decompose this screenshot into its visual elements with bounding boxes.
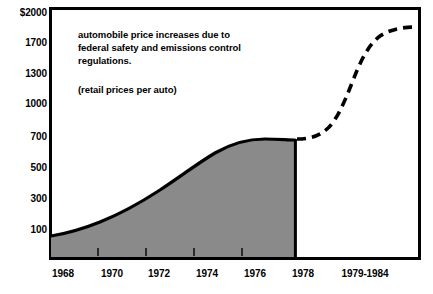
- x-tick-label: 1972: [148, 268, 170, 279]
- y-tick-label: 300: [1, 193, 47, 204]
- chart-annotation-main: automobile price increases due to federa…: [78, 28, 263, 68]
- chart-annotation-subtitle: (retail prices per auto): [78, 83, 263, 96]
- x-tick-label: 1970: [101, 268, 123, 279]
- y-tick-label: 1000: [1, 98, 47, 109]
- y-tick-label: 500: [1, 162, 47, 173]
- x-tick-label: 1976: [244, 268, 266, 279]
- x-tick-label: 1968: [52, 268, 74, 279]
- y-tick-label: 1300: [1, 68, 47, 79]
- y-tick-label: 700: [1, 131, 47, 142]
- y-tick-label: $2000: [1, 7, 47, 18]
- y-tick-label: 100: [1, 224, 47, 235]
- price-increase-chart: $2000 1700 1300 1000 700 500 300 100 196…: [0, 0, 433, 294]
- x-tick-label: 1974: [196, 268, 218, 279]
- x-tick-label: 1978: [292, 268, 314, 279]
- y-tick-label: 1700: [1, 37, 47, 48]
- x-tick-label: 1979-1984: [342, 268, 389, 279]
